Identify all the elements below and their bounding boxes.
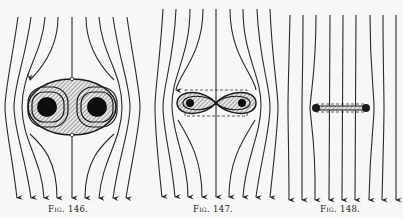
caption-fig-147: Fig. 147. xyxy=(193,204,233,214)
node-top xyxy=(70,77,74,81)
figure-148 xyxy=(288,15,396,200)
conductor-right xyxy=(238,99,246,107)
bar-end-right xyxy=(362,104,370,112)
bar-end-left xyxy=(312,104,320,112)
figures-canvas xyxy=(0,0,403,218)
conductor-right xyxy=(87,97,107,117)
caption-fig-148: Fig. 148. xyxy=(320,204,360,214)
figure-147 xyxy=(155,9,278,197)
caption-fig-146: Fig. 146. xyxy=(48,204,88,214)
conductor-left xyxy=(186,99,194,107)
conductor-left xyxy=(37,97,57,117)
thin-bar xyxy=(316,106,366,110)
node-bottom xyxy=(70,133,74,137)
figure-146 xyxy=(5,17,140,198)
